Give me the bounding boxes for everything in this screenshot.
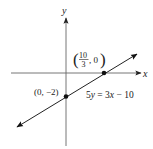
fraction-denominator: 3: [82, 60, 86, 69]
coordinate-graph: x y ( 10 3 , 0 ) (0, −2) 5y = 3x − 10: [0, 0, 153, 149]
fraction-numerator: 10: [79, 51, 87, 60]
x-intercept-label-suffix: , 0: [89, 55, 99, 65]
x-axis-label: x: [142, 68, 148, 79]
equation-label: 5y = 3x − 10: [86, 90, 134, 100]
equation-rhs-rest: − 10: [114, 90, 134, 100]
y-intercept-point: [64, 94, 69, 99]
equation-equals: =: [95, 90, 105, 100]
svg-text:): ): [100, 50, 106, 69]
x-intercept-label: ( 10 3 , 0 ): [73, 50, 106, 69]
x-intercept-point: [102, 71, 107, 76]
y-axis-label: y: [61, 5, 67, 16]
y-intercept-label: (0, −2): [34, 87, 59, 97]
